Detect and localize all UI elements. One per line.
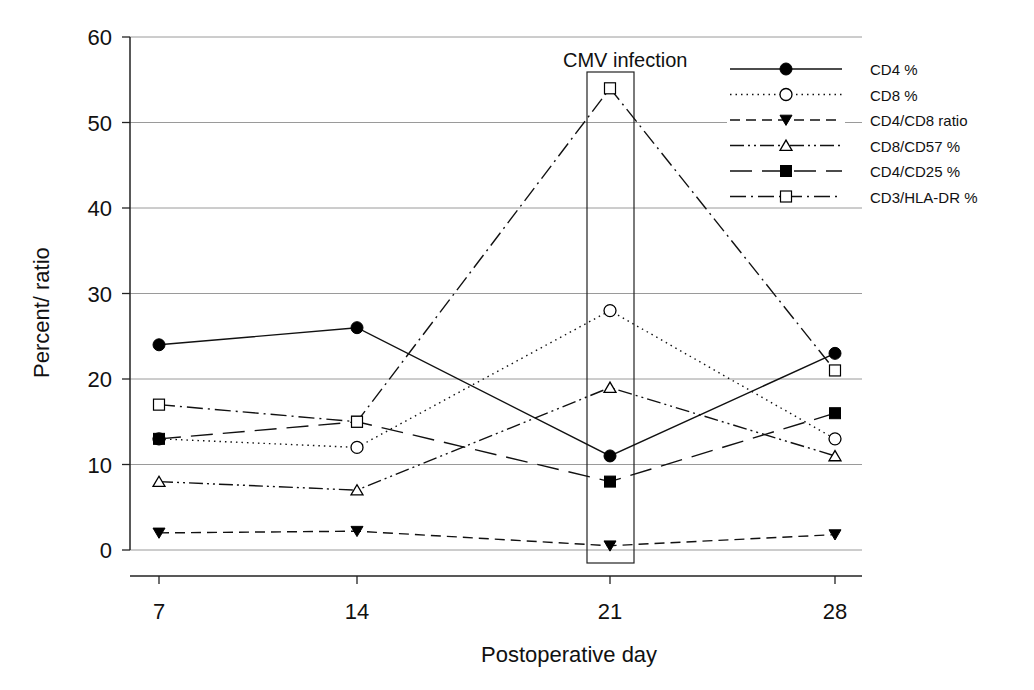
x-axis: 7142128 [130,576,862,624]
cmv-infection-box [587,72,634,563]
legend-item: CD4/CD8 ratio [727,111,968,129]
y-tick-label: 50 [88,111,112,136]
open-circle-marker-icon [604,305,616,317]
legend-label: CD4/CD25 % [870,163,960,180]
y-tick-label: 40 [88,196,112,221]
legend-label: CD4 % [870,61,918,78]
series-cd3-hla-dr [154,83,841,427]
y-tick-label: 0 [100,538,112,563]
open-square-marker-icon [781,191,792,202]
legend-label: CD3/HLA-DR % [870,189,978,206]
filled-square-marker-icon [154,433,165,444]
legend-item: CD4/CD25 % [727,162,960,180]
filled-circle-marker-icon [351,322,363,334]
open-triangle-up-marker-icon [604,382,616,392]
legend-item: CD4 % [727,60,918,78]
filled-square-marker-icon [781,166,792,177]
legend-item: CD8/CD57 % [727,137,960,155]
open-circle-marker-icon [351,441,363,453]
open-square-marker-icon [830,365,841,376]
x-tick-label: 21 [598,599,622,624]
y-axis-title: Percent/ ratio [29,247,54,378]
line-chart: 0102030405060 7142128 CMV infection CD4 … [0,0,1034,690]
series-cd4-cd25 [154,408,841,487]
series-line [159,328,835,456]
x-tick-label: 14 [345,599,369,624]
filled-square-marker-icon [830,408,841,419]
legend-item: CD8 % [727,86,918,104]
series-line [159,413,835,481]
open-square-marker-icon [154,399,165,410]
open-triangle-up-marker-icon [829,451,841,461]
y-tick-label: 10 [88,453,112,478]
open-square-marker-icon [352,416,363,427]
legend-label: CD8 % [870,87,918,104]
filled-square-marker-icon [605,476,616,487]
series-line [159,388,835,491]
open-square-marker-icon [605,83,616,94]
open-circle-marker-icon [829,433,841,445]
filled-circle-marker-icon [780,63,792,75]
y-tick-label: 20 [88,367,112,392]
legend-label: CD4/CD8 ratio [870,112,968,129]
y-tick-label: 30 [88,282,112,307]
y-tick-label: 60 [88,25,112,50]
x-tick-label: 28 [823,599,847,624]
legend-label: CD8/CD57 % [870,138,960,155]
series-cd4-cd8-ratio [153,526,841,551]
y-axis: 0102030405060 [88,25,130,563]
x-axis-title: Postoperative day [481,642,657,667]
legend-item: CD3/HLA-DR % [727,188,978,206]
x-tick-label: 7 [153,599,165,624]
filled-circle-marker-icon [829,347,841,359]
series-line [159,531,835,546]
legend: CD4 %CD8 %CD4/CD8 ratioCD8/CD57 %CD4/CD2… [727,60,978,206]
filled-circle-marker-icon [604,450,616,462]
open-circle-marker-icon [780,89,792,101]
filled-circle-marker-icon [153,339,165,351]
cmv-infection-label: CMV infection [563,49,688,71]
series-cd4 [153,322,841,462]
